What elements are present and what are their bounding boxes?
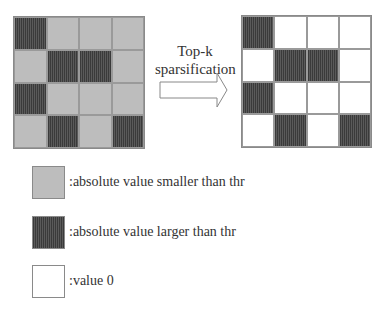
matrix-cell-large	[339, 114, 371, 147]
matrix-cell-large	[274, 49, 306, 82]
matrix-cell-small	[14, 115, 47, 148]
matrix-cell-zero	[242, 49, 274, 82]
matrix-cell-zero	[242, 114, 274, 147]
legend-swatch-small	[32, 166, 65, 199]
matrix-cell-small	[112, 50, 145, 83]
matrix-cell-large	[14, 17, 47, 50]
sparse-matrix	[241, 15, 372, 148]
matrix-cell-zero	[339, 16, 371, 49]
dense-matrix	[13, 16, 145, 149]
legend-label-zero: :value 0	[69, 273, 114, 289]
matrix-cell-large	[274, 114, 306, 147]
matrix-cell-small	[112, 83, 145, 116]
matrix-cell-small	[47, 83, 80, 116]
matrix-cell-zero	[339, 49, 371, 82]
matrix-cell-small	[79, 17, 112, 50]
right-arrow-icon	[158, 70, 230, 110]
matrix-cell-zero	[274, 82, 306, 115]
matrix-cell-zero	[339, 82, 371, 115]
matrix-cell-large	[47, 115, 80, 148]
legend-label-large: :absolute value larger than thr	[69, 224, 236, 240]
matrix-cell-small	[79, 83, 112, 116]
matrix-cell-zero	[307, 82, 339, 115]
legend-swatch-zero	[32, 265, 65, 298]
matrix-cell-zero	[307, 16, 339, 49]
matrix-cell-small	[14, 50, 47, 83]
legend-swatch-large	[32, 216, 65, 249]
matrix-cell-large	[242, 16, 274, 49]
matrix-cell-zero	[307, 114, 339, 147]
legend-label-small: :absolute value smaller than thr	[69, 174, 245, 190]
matrix-cell-small	[112, 17, 145, 50]
matrix-cell-large	[14, 83, 47, 116]
matrix-cell-large	[112, 115, 145, 148]
matrix-cell-zero	[274, 16, 306, 49]
matrix-cell-large	[79, 50, 112, 83]
matrix-cell-large	[307, 49, 339, 82]
matrix-cell-large	[242, 82, 274, 115]
matrix-cell-small	[47, 17, 80, 50]
matrix-cell-small	[79, 115, 112, 148]
matrix-cell-large	[47, 50, 80, 83]
arrow-label-top: Top-k	[155, 42, 235, 60]
